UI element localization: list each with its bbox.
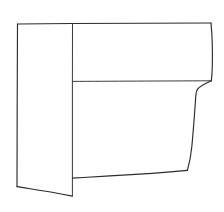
line-drawing [0, 0, 224, 212]
drawing-canvas [0, 0, 224, 212]
left-strip-face [17, 81, 72, 196]
left-edge-line [17, 24, 18, 187]
upper-panel-face [17, 23, 212, 82]
mid-horizontal-line [72, 81, 211, 82]
